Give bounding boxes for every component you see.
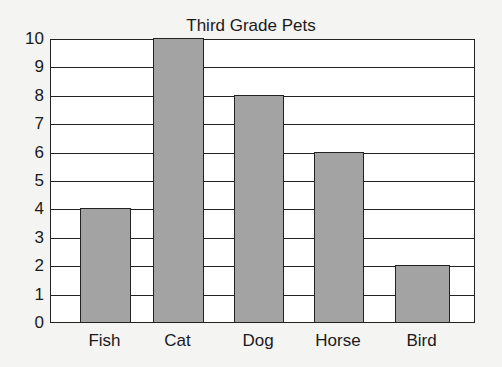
chart-title: Third Grade Pets — [0, 16, 502, 36]
y-tick-label: 4 — [0, 200, 44, 217]
bar-horse — [314, 152, 364, 322]
y-tick-label: 10 — [0, 30, 44, 47]
bar-bird — [395, 265, 450, 322]
x-tick-label: Dog — [218, 331, 298, 351]
x-tick-label: Bird — [382, 331, 462, 351]
y-tick-label: 3 — [0, 229, 44, 246]
plot-area — [50, 39, 475, 323]
x-tick-label: Fish — [65, 331, 145, 351]
y-tick-label: 5 — [0, 172, 44, 189]
bar-cat — [153, 38, 204, 322]
y-tick-label: 7 — [0, 115, 44, 132]
bar-chart: Third Grade Pets 012345678910 FishCatDog… — [0, 0, 502, 367]
x-tick-label: Horse — [298, 331, 378, 351]
y-tick-label: 2 — [0, 257, 44, 274]
y-tick-label: 8 — [0, 87, 44, 104]
x-tick-label: Cat — [138, 331, 218, 351]
y-tick-label: 9 — [0, 58, 44, 75]
y-tick-label: 1 — [0, 286, 44, 303]
bar-dog — [234, 95, 284, 322]
y-tick-label: 0 — [0, 314, 44, 331]
gridline — [51, 67, 474, 68]
y-tick-label: 6 — [0, 144, 44, 161]
bar-fish — [80, 208, 131, 322]
